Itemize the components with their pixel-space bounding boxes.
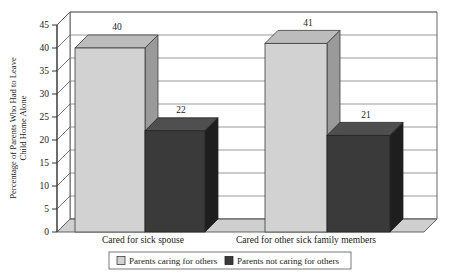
bar-series2-cat1-side (205, 118, 218, 232)
y-tick-label-40: 40 (40, 43, 50, 53)
y-tick-label-25: 25 (40, 112, 50, 122)
category-label-1: Cared for other sick family members (236, 235, 376, 245)
bar-series2-cat2 (327, 122, 403, 232)
bar-chart-figure: 45 40 35 30 25 20 15 10 5 0 Percentage o… (0, 0, 452, 278)
plot-left-wall (57, 12, 70, 232)
legend-swatch-parents-not-caring-for-others (225, 257, 233, 265)
y-tick-label-45: 45 (40, 20, 50, 30)
y-tick-label-35: 35 (40, 66, 50, 76)
y-axis: 45 40 35 30 25 20 15 10 5 0 (40, 20, 58, 237)
category-label-0: Cared for sick spouse (102, 235, 184, 245)
legend-label-parents-caring-for-others: Parents caring for others (129, 256, 218, 266)
y-tick-label-20: 20 (40, 135, 50, 145)
y-tick-label-10: 10 (40, 181, 50, 191)
y-tick-label-5: 5 (44, 204, 49, 214)
bar-series2-cat1 (145, 118, 218, 232)
y-tick-label-15: 15 (40, 158, 50, 168)
bar-series1-cat1-top (75, 35, 158, 48)
bar-series2-cat1-front (145, 131, 205, 232)
legend-swatch-parents-caring-for-others (117, 257, 125, 265)
bar-series2-cat2-front (327, 135, 390, 232)
value-label-series1-cat1: 40 (112, 22, 122, 32)
bar-series1-cat2-front (265, 43, 327, 232)
value-label-series2-cat1: 22 (176, 105, 186, 115)
chart-svg: 45 40 35 30 25 20 15 10 5 0 Percentage o… (0, 0, 452, 278)
y-axis-title: Percentage of Parents Who Had to Leave C… (8, 57, 28, 199)
legend: Parents caring for others Parents not ca… (109, 252, 351, 269)
bar-series1-cat1-front (75, 48, 145, 232)
bar-series2-cat2-side (390, 122, 403, 232)
y-tick-label-0: 0 (44, 227, 49, 237)
value-label-series2-cat2: 21 (361, 110, 371, 120)
y-axis-title-line2: Child Home Alone (18, 95, 28, 160)
y-tick-label-30: 30 (40, 89, 50, 99)
value-label-series1-cat2: 41 (303, 18, 313, 28)
y-axis-title-line1: Percentage of Parents Who Had to Leave (8, 57, 18, 199)
legend-label-parents-not-caring-for-others: Parents not caring for others (237, 256, 339, 266)
category-labels: Cared for sick spouse Cared for other si… (102, 235, 376, 245)
